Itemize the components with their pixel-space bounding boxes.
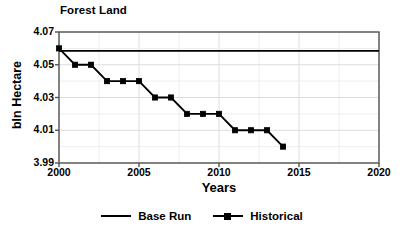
data-point-marker [216,111,221,116]
chart-figure: Forest Land bln Hectare 4.07 4.05 4.03 4… [0,0,404,245]
legend-label-base-run: Base Run [138,210,191,222]
legend-line-icon [101,210,131,222]
data-point-marker [72,62,77,67]
data-point-marker [120,79,125,84]
data-point-marker [56,46,61,51]
legend-item-base-run[interactable]: Base Run [101,210,191,222]
data-point-marker [136,79,141,84]
chart-legend: Base Run Historical [0,210,404,222]
data-point-marker [184,111,189,116]
plot-area [0,0,404,245]
data-point-marker [232,128,237,133]
data-point-marker [248,128,253,133]
data-point-marker [152,95,157,100]
legend-line-marker-icon [213,210,243,222]
data-point-marker [104,79,109,84]
legend-label-historical: Historical [250,210,302,222]
data-point-marker [264,128,269,133]
data-point-marker [280,144,285,149]
data-point-marker [200,111,205,116]
legend-item-historical[interactable]: Historical [213,210,302,222]
data-point-marker [168,95,173,100]
data-point-marker [88,62,93,67]
